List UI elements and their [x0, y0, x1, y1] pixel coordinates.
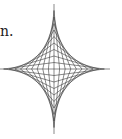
astroid-string-art-figure [0, 0, 122, 139]
